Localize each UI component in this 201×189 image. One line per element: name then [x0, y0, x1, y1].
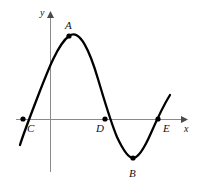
- x-axis-label: x: [183, 123, 189, 134]
- point-label-b: B: [129, 167, 136, 179]
- point-label-c: C: [27, 122, 35, 134]
- point-marker-a: [66, 33, 71, 38]
- point-marker-c: [20, 116, 25, 121]
- y-axis-arrow-icon: [47, 11, 54, 18]
- point-label-d: D: [95, 122, 104, 134]
- point-label-e: E: [162, 122, 170, 134]
- point-marker-b: [130, 155, 135, 160]
- figure-container: A B C D E x y: [0, 0, 201, 189]
- point-label-a: A: [64, 19, 72, 31]
- y-axis-label: y: [39, 7, 45, 18]
- point-marker-d: [102, 116, 107, 121]
- x-axis-arrow-icon: [181, 116, 188, 123]
- cubic-curve-figure: A B C D E x y: [0, 0, 201, 189]
- point-marker-e: [155, 116, 160, 121]
- cubic-curve-path: [20, 34, 170, 158]
